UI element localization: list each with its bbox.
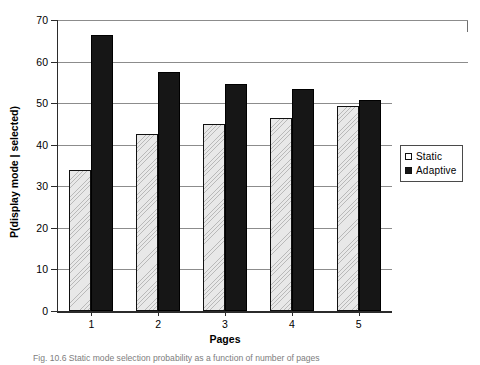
bar-static-5 (337, 106, 359, 311)
y-tick-label-60: 60 (36, 56, 48, 68)
bar-adaptive-2 (158, 72, 180, 311)
y-tick-label-50: 50 (36, 97, 48, 109)
plot-area (58, 20, 392, 311)
legend-swatch-static-icon (405, 153, 412, 160)
y-tick-label-70: 70 (36, 14, 48, 26)
y-tick-label-30: 30 (36, 180, 48, 192)
y-tick-label-10: 10 (36, 263, 48, 275)
bar-adaptive-5 (359, 100, 381, 311)
x-tick-label-5: 5 (356, 318, 362, 330)
bar-group-4 (270, 20, 314, 311)
bar-group-3 (203, 20, 247, 311)
x-tick-label-4: 4 (289, 318, 295, 330)
legend-item-static: Static (405, 149, 457, 163)
bar-static-3 (203, 124, 225, 311)
x-axis-title: Pages (58, 333, 392, 345)
bar-static-2 (136, 134, 158, 311)
x-tick-2 (158, 311, 159, 316)
legend-label-adaptive: Adaptive (416, 165, 457, 176)
x-tick-1 (91, 311, 92, 316)
legend: Static Adaptive (400, 145, 463, 182)
legend-item-adaptive: Adaptive (405, 163, 457, 177)
bar-group-1 (69, 20, 113, 311)
x-tick-3 (225, 311, 226, 316)
x-tick-label-1: 1 (88, 318, 94, 330)
y-tick-label-wrap-0: 0 (0, 311, 48, 312)
bar-static-1 (69, 170, 91, 311)
y-tick-label-20: 20 (36, 222, 48, 234)
bar-adaptive-3 (225, 84, 247, 311)
bar-group-5 (337, 20, 381, 311)
y-axis-title: P(display mode | selected) (8, 72, 20, 272)
x-tick-4 (292, 311, 293, 316)
figure: 010203040506070 P(display mode | selecte… (0, 0, 480, 365)
bar-adaptive-4 (292, 89, 314, 311)
x-tick-label-3: 3 (222, 318, 228, 330)
bar-group-2 (136, 20, 180, 311)
plot-frame-right (467, 20, 468, 32)
figure-caption: Fig. 10.6 Static mode selection probabil… (33, 352, 449, 364)
bar-static-4 (270, 118, 292, 311)
y-tick-label-wrap-70: 70 (0, 20, 48, 21)
x-tick-5 (359, 311, 360, 316)
legend-label-static: Static (416, 151, 442, 162)
y-tick-label-40: 40 (36, 139, 48, 151)
legend-swatch-adaptive-icon (405, 167, 412, 174)
bar-adaptive-1 (91, 35, 113, 311)
y-tick-label-wrap-60: 60 (0, 62, 48, 63)
x-tick-label-2: 2 (155, 318, 161, 330)
y-tick-label-0: 0 (42, 305, 48, 317)
